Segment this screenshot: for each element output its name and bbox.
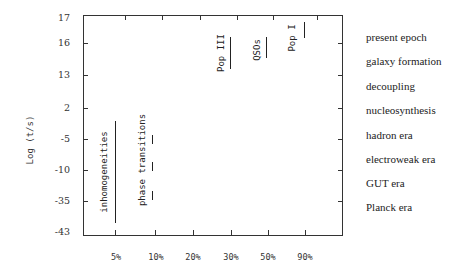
era-label-hadron-era: hadron era (366, 129, 413, 141)
qsos-bar (266, 37, 267, 58)
x-tick-mark (231, 230, 232, 236)
era-label-planck-era: Planck era (366, 201, 412, 213)
right-tick-mark (338, 43, 343, 44)
era-label-gut-era: GUT era (366, 177, 405, 189)
x-tick-mark (305, 230, 306, 236)
x-tick-label: 5% (96, 252, 136, 262)
y-tick-label: -43 (38, 227, 70, 237)
y-tick-mark (83, 75, 88, 76)
y-tick-mark (83, 43, 88, 44)
phase-transition-segment (152, 135, 153, 144)
y-tick-label: -10 (38, 165, 70, 175)
phase-transitions-label: phase transitions (137, 114, 147, 206)
x-tick-label: 90% (285, 252, 325, 262)
top-tick-mark (162, 15, 163, 20)
plot-frame (83, 15, 343, 236)
right-tick-mark (338, 170, 343, 171)
x-tick-label: 20% (173, 252, 213, 262)
right-tick-mark (338, 75, 343, 76)
pop1-label: Pop I (287, 24, 297, 51)
top-tick-mark (317, 15, 318, 20)
x-tick-mark (193, 230, 194, 236)
y-tick-mark (83, 108, 88, 109)
era-label-present-epoch: present epoch (366, 31, 427, 43)
pop3-bar (230, 37, 231, 69)
x-tick-mark (115, 230, 116, 236)
y-tick-label: 13 (38, 70, 70, 80)
y-tick-mark (83, 201, 88, 202)
y-tick-label: 17 (38, 13, 70, 23)
inhomogeneities-label: inhomogeneities (99, 131, 109, 212)
pop3-label: Pop III (216, 34, 226, 72)
y-tick-label: 16 (38, 38, 70, 48)
x-tick-label: 50% (248, 252, 288, 262)
phase-transition-segment (152, 162, 153, 171)
right-tick-mark (338, 108, 343, 109)
top-tick-mark (273, 15, 274, 20)
x-tick-mark (268, 230, 269, 236)
era-label-galaxy-formation: galaxy formation (366, 55, 441, 67)
phase-transition-segment (152, 191, 153, 200)
qsos-label: QSOs (252, 39, 262, 61)
era-label-electroweak-era: electroweak era (366, 153, 435, 165)
x-tick-label: 30% (211, 252, 251, 262)
y-tick-mark (83, 170, 88, 171)
inhomogeneities-bar (115, 121, 116, 223)
y-tick-label: -5 (38, 134, 70, 144)
x-tick-label: 10% (136, 252, 176, 262)
top-tick-mark (237, 15, 238, 20)
era-label-nucleosynthesis: nucleosynthesis (366, 104, 436, 116)
top-tick-mark (200, 15, 201, 20)
y-tick-label: 2 (38, 103, 70, 113)
y-tick-mark (83, 139, 88, 140)
top-tick-mark (125, 15, 126, 20)
y-tick-label: -35 (38, 196, 70, 206)
x-tick-mark (155, 230, 156, 236)
y-axis-title: Log (t/s) (25, 116, 35, 165)
era-label-decoupling: decoupling (366, 80, 415, 92)
right-tick-mark (338, 201, 343, 202)
right-tick-mark (338, 139, 343, 140)
pop1-bar (304, 22, 305, 38)
